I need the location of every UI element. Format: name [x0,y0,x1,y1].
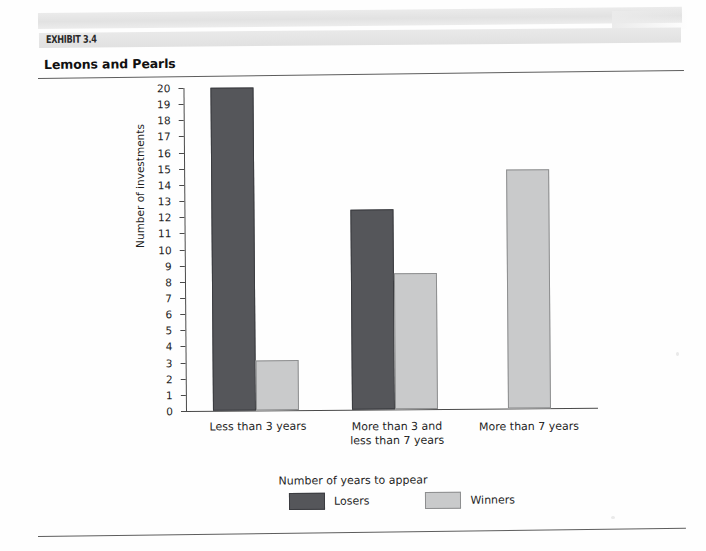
y-axis-tick: 16 [179,153,184,154]
bar-group-container [183,85,595,88]
y-axis-tick-label: 10 [158,244,172,256]
y-axis-tick-label: 9 [165,260,172,272]
y-axis-tick: 14 [179,185,184,186]
y-axis-tick: 3 [181,363,186,364]
y-axis-tick-label: 12 [158,211,172,223]
y-axis-tick: 0 [181,411,186,412]
legend-item-winners: Winners [425,491,515,509]
y-axis-tick-label: 5 [166,324,173,336]
bar-losers-0 [210,87,256,410]
y-axis-tick-label: 8 [165,276,172,288]
legend: Losers Winners [289,491,515,510]
y-axis-tick-label: 19 [157,98,171,110]
y-axis-tick: 4 [180,346,185,347]
y-axis-tick: 6 [180,314,185,315]
y-axis-tick: 10 [180,250,185,251]
bar-winners-2 [506,169,551,408]
y-axis-tick-label: 18 [157,114,171,126]
x-axis-label-2: More than 7 years [449,419,609,434]
bar-losers-1 [350,209,395,410]
y-axis-tick: 9 [180,266,185,267]
legend-swatch-winners [425,492,461,509]
y-axis-tick-label: 6 [165,308,172,320]
y-axis-tick: 7 [180,298,185,299]
y-axis-tick: 8 [180,282,185,283]
y-axis-tick: 2 [181,379,186,380]
legend-label-losers: Losers [334,494,370,507]
legend-title: Number of years to appear [0,472,706,490]
y-axis-tick-label: 1 [166,389,173,401]
y-axis-tick-label: 3 [166,357,173,369]
bar-winners-1 [394,273,438,409]
bar-winners-0 [256,360,299,410]
y-axis-tick-label: 2 [166,373,173,385]
bar-chart: Number of investments 201918171615141312… [0,0,706,551]
scan-speckle [676,352,679,356]
y-axis-tick-label: 20 [157,82,171,94]
y-axis-tick: 13 [179,201,184,202]
y-axis-tick: 11 [180,233,185,234]
y-axis-tick-label: 17 [157,131,171,143]
y-axis-tick: 20 [178,88,183,89]
y-axis-tick: 1 [181,395,186,396]
exhibit-page: EXHIBIT 3.4 Lemons and Pearls Number of … [0,0,706,551]
y-axis-tick-label: 4 [166,340,173,352]
legend-swatch-losers [289,493,325,510]
y-axis-tick-label: 13 [158,195,172,207]
x-axis-label-0: Less than 3 years [178,419,338,434]
y-axis-tick: 12 [179,217,184,218]
y-axis-tick-label: 7 [165,292,172,304]
y-axis-tick-label: 16 [157,147,171,159]
y-axis-tick-label: 14 [158,179,172,191]
y-axis-title: Number of investments [134,124,146,248]
y-axis-tick: 17 [179,136,184,137]
y-axis-tick-label: 11 [158,227,172,239]
scan-speckle [611,516,615,519]
legend-item-losers: Losers [289,492,370,510]
y-axis-tick-label: 0 [166,405,173,417]
plot-area: 20191817161514131211109876543210 [183,85,598,412]
y-axis-tick: 19 [179,104,184,105]
y-axis-tick: 15 [179,169,184,170]
y-axis-tick: 5 [180,330,185,331]
y-axis-tick: 18 [179,120,184,121]
y-axis-tick-label: 15 [157,163,171,175]
legend-label-winners: Winners [470,493,515,506]
